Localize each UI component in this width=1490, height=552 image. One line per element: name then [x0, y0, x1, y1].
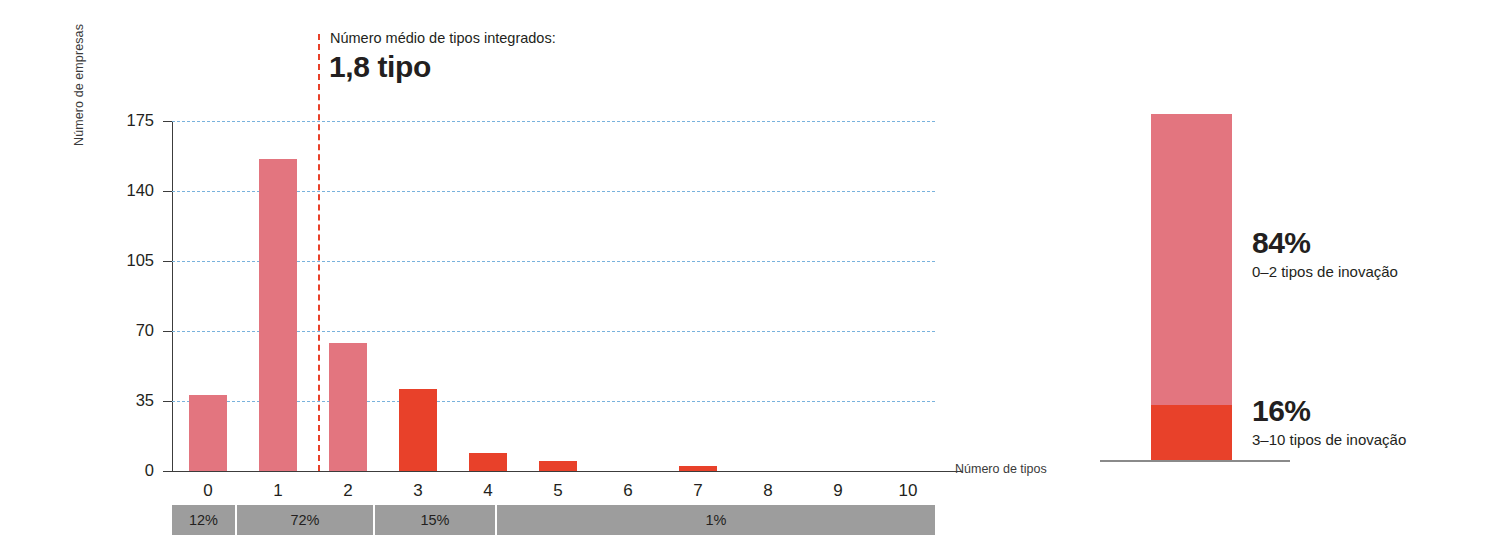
y-tick-label: 70	[100, 321, 154, 340]
percent-band-segment: 1%	[497, 505, 935, 535]
stacked-bar-top-description: 0–2 tipos de inovação	[1252, 263, 1398, 280]
mean-value: 1,8 tipo	[329, 50, 431, 84]
stacked-bar-baseline	[1100, 460, 1290, 462]
y-tick-label: 140	[100, 181, 154, 200]
stacked-bar	[1151, 114, 1232, 460]
y-tick-label: 35	[100, 391, 154, 410]
histogram-panel: Número de empresas 03570105140175 012345…	[0, 0, 1000, 552]
bar	[329, 343, 367, 471]
x-tick-label: 6	[598, 481, 658, 501]
bar	[189, 395, 227, 471]
y-axis-title: Número de empresas	[72, 6, 90, 146]
percent-band-segment: 12%	[172, 505, 237, 535]
y-tick-label: 0	[100, 461, 154, 480]
percent-band-segment: 15%	[375, 505, 497, 535]
plot-area: 03570105140175 012345678910	[172, 121, 935, 471]
y-tick-mark	[163, 471, 172, 472]
percent-band: 12%72%15%1%	[172, 505, 935, 535]
bar	[469, 453, 507, 471]
y-axis-line	[172, 121, 173, 471]
x-tick-label: 1	[248, 481, 308, 501]
stacked-bar-panel: 84% 0–2 tipos de inovação 16% 3–10 tipos…	[1000, 0, 1490, 552]
x-tick-label: 2	[318, 481, 378, 501]
bar	[679, 466, 717, 471]
x-tick-label: 9	[808, 481, 868, 501]
stacked-bar-note-bottom: 16% 3–10 tipos de inovação	[1252, 396, 1406, 448]
stacked-bar-note-top: 84% 0–2 tipos de inovação	[1252, 228, 1398, 280]
mean-reference-line	[318, 34, 320, 471]
x-tick-label: 3	[388, 481, 448, 501]
mean-caption: Número médio de tipos integrados:	[330, 30, 556, 46]
y-tick-mark	[163, 121, 172, 122]
stacked-bar-top-percent: 84%	[1252, 228, 1398, 258]
x-tick-label: 8	[738, 481, 798, 501]
y-tick-mark	[163, 401, 172, 402]
bar	[399, 389, 437, 471]
y-tick-mark	[163, 191, 172, 192]
stacked-bar-bottom-percent: 16%	[1252, 396, 1406, 426]
x-tick-label: 7	[668, 481, 728, 501]
percent-band-segment: 72%	[237, 505, 375, 535]
bar	[259, 159, 297, 471]
x-tick-label: 0	[178, 481, 238, 501]
y-tick-mark	[163, 261, 172, 262]
y-tick-label: 175	[100, 111, 154, 130]
bar	[539, 461, 577, 471]
x-axis-line	[172, 471, 962, 472]
gridline	[172, 121, 935, 122]
y-tick-mark	[163, 331, 172, 332]
y-tick-label: 105	[100, 251, 154, 270]
stacked-bar-segment	[1151, 405, 1232, 460]
infographic-canvas: Número de empresas 03570105140175 012345…	[0, 0, 1490, 552]
x-tick-label: 4	[458, 481, 518, 501]
x-tick-label: 10	[878, 481, 938, 501]
x-tick-label: 5	[528, 481, 588, 501]
stacked-bar-bottom-description: 3–10 tipos de inovação	[1252, 431, 1406, 448]
stacked-bar-segment	[1151, 114, 1232, 405]
